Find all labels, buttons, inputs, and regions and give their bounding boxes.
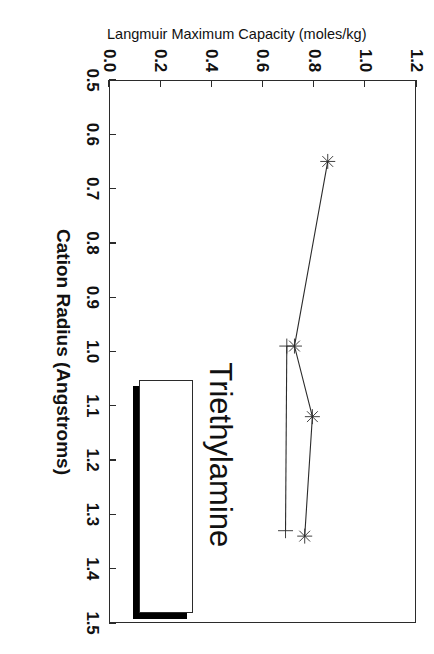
x-axis-tick <box>109 297 116 298</box>
y-axis-title: Langmuir Maximum Capacity (moles/kg) <box>107 26 366 42</box>
figure-rotation-wrapper: 0.50.60.70.80.91.01.11.21.31.41.50.00.20… <box>0 0 434 654</box>
y-axis-tick-label: 0.2 <box>150 16 170 72</box>
x-axis-tick-label: 1.3 <box>82 503 102 526</box>
chart-page: 0.50.60.70.80.91.01.11.21.31.41.50.00.20… <box>0 0 434 654</box>
asterisk-marker-icon <box>305 409 320 424</box>
x-axis-tick-label: 1.5 <box>82 611 102 634</box>
chart-figure: 0.50.60.70.80.91.01.11.21.31.41.50.00.20… <box>0 0 434 654</box>
x-axis-title: Cation Radius (Angstroms) <box>52 229 74 475</box>
x-axis-tick <box>109 405 116 406</box>
x-axis-tick <box>109 514 116 515</box>
x-axis-tick <box>109 134 116 135</box>
y-axis-tick-label: 0.0 <box>99 16 119 72</box>
y-axis-tick-label: 0.6 <box>253 16 273 72</box>
legend-box[interactable]: Mono-valent ions <box>139 380 193 613</box>
x-axis-tick <box>109 188 116 189</box>
y-axis-tick <box>364 80 365 87</box>
y-axis-tick <box>262 80 263 87</box>
asterisk-marker-icon <box>320 154 335 169</box>
x-axis-tick-label: 1.4 <box>82 557 102 580</box>
data-line-di-valent-ions <box>294 161 327 536</box>
x-axis-tick-label: 0.7 <box>82 177 102 200</box>
x-axis-tick-label: 1.0 <box>82 340 102 363</box>
x-axis-tick <box>109 242 116 243</box>
y-axis-tick <box>160 80 161 87</box>
y-axis-tick-label: 1.2 <box>406 16 426 72</box>
asterisk-marker-icon <box>297 529 312 544</box>
plus-marker-icon <box>278 523 293 538</box>
x-axis-tick <box>109 568 116 569</box>
y-axis-tick <box>415 80 416 87</box>
y-axis-tick <box>313 80 314 87</box>
x-axis-tick-label: 0.8 <box>82 231 102 254</box>
data-line-mono-valent-ions <box>286 346 287 531</box>
y-axis-tick-label: 0.8 <box>304 16 324 72</box>
chart-title: Triethylamine <box>202 362 238 547</box>
x-axis-tick-label: 1.1 <box>82 394 102 417</box>
x-axis-tick-label: 0.6 <box>82 123 102 146</box>
asterisk-marker-icon <box>287 339 302 354</box>
x-axis-tick <box>109 351 116 352</box>
y-axis-tick <box>211 80 212 87</box>
x-axis-tick-label: 0.9 <box>82 286 102 309</box>
x-axis-tick <box>109 622 116 623</box>
y-axis-tick <box>108 80 109 87</box>
x-axis-tick <box>109 459 116 460</box>
y-axis-tick-label: 0.4 <box>201 16 221 72</box>
x-axis-tick-label: 1.2 <box>82 449 102 472</box>
x-axis-tick <box>109 79 116 80</box>
y-axis-tick-label: 1.0 <box>355 16 375 72</box>
